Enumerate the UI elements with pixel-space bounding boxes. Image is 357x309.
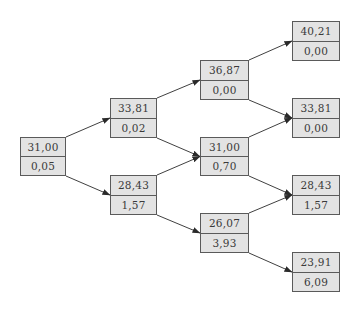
node-option-value: 0,00 bbox=[201, 81, 248, 100]
node-price: 23,91 bbox=[293, 253, 339, 273]
edge-arrow-n2dd-n3c bbox=[249, 195, 292, 213]
tree-node-step2-downdown: 26,07 3,93 bbox=[200, 213, 249, 253]
node-option-value: 3,93 bbox=[201, 234, 248, 253]
tree-node-step3-c: 28,43 1,57 bbox=[292, 175, 340, 215]
node-price: 36,87 bbox=[201, 61, 248, 81]
edge-arrow-n2uu-n3b bbox=[249, 100, 292, 118]
edge-arrow-n2uu-n3a bbox=[249, 41, 292, 60]
node-price: 26,07 bbox=[201, 214, 248, 234]
edge-arrow-n1d-n2dd bbox=[157, 215, 200, 233]
node-option-value: 1,57 bbox=[111, 196, 156, 215]
edge-arrow-n0-n1d bbox=[66, 176, 110, 195]
edge-arrow-n2ud-n3b bbox=[249, 118, 292, 137]
node-option-value: 0,70 bbox=[201, 157, 248, 175]
tree-node-step3-a: 40,21 0,00 bbox=[292, 21, 340, 61]
tree-node-step1-down: 28,43 1,57 bbox=[110, 175, 157, 215]
edge-arrow-n1u-n2uu bbox=[157, 80, 200, 98]
node-option-value: 0,05 bbox=[21, 157, 65, 175]
tree-node-root: 31,00 0,05 bbox=[20, 137, 66, 176]
edge-arrow-n0-n1u bbox=[66, 118, 110, 137]
node-option-value: 6,09 bbox=[293, 273, 339, 292]
tree-node-step2-upup: 36,87 0,00 bbox=[200, 60, 249, 100]
tree-node-step3-b: 33,81 0,00 bbox=[292, 98, 340, 138]
node-price: 28,43 bbox=[293, 176, 339, 196]
tree-node-step3-d: 23,91 6,09 bbox=[292, 252, 340, 292]
edge-arrow-n2dd-n3d bbox=[249, 253, 292, 272]
node-price: 33,81 bbox=[111, 99, 156, 119]
node-option-value: 0,00 bbox=[293, 119, 339, 138]
node-option-value: 1,57 bbox=[293, 196, 339, 215]
tree-node-step1-up: 33,81 0,02 bbox=[110, 98, 157, 138]
edge-arrow-n1u-n2ud bbox=[157, 138, 200, 157]
tree-node-step2-updown: 31,00 0,70 bbox=[200, 137, 249, 176]
node-price: 40,21 bbox=[293, 22, 339, 42]
edge-arrow-n1d-n2ud bbox=[157, 157, 200, 176]
edge-arrow-n2ud-n3c bbox=[249, 176, 292, 195]
node-option-value: 0,02 bbox=[111, 119, 156, 138]
node-price: 33,81 bbox=[293, 99, 339, 119]
binomial-tree-diagram: 31,00 0,05 33,81 0,02 28,43 1,57 36,87 0… bbox=[0, 0, 357, 309]
node-option-value: 0,00 bbox=[293, 42, 339, 61]
node-price: 28,43 bbox=[111, 176, 156, 196]
node-price: 31,00 bbox=[201, 138, 248, 157]
node-price: 31,00 bbox=[21, 138, 65, 157]
